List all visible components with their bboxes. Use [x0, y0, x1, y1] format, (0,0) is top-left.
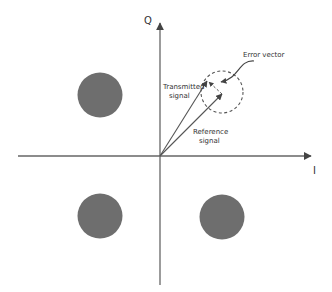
constellation-point-top-left: [78, 73, 123, 118]
constellation-point-bottom-right: [200, 195, 245, 240]
error-region-dashed-circle: [201, 71, 243, 113]
error-vector: [209, 82, 222, 94]
q-axis-label: Q: [144, 15, 152, 26]
error-vector-label: Error vector: [243, 51, 285, 59]
transmitted-signal-label-line1: Transmitted: [162, 83, 205, 91]
iq-constellation-diagram: Q I Transmitted signal Reference signal …: [0, 0, 332, 292]
reference-signal-label-line2: signal: [199, 137, 220, 145]
reference-signal-label-line1: Reference: [193, 128, 228, 136]
i-axis-label: I: [313, 165, 316, 176]
transmitted-signal-label-line2: signal: [169, 92, 190, 100]
constellation-point-bottom-left: [78, 194, 123, 239]
error-vector-pointer: [221, 61, 254, 82]
reference-signal-vector: [160, 94, 222, 156]
